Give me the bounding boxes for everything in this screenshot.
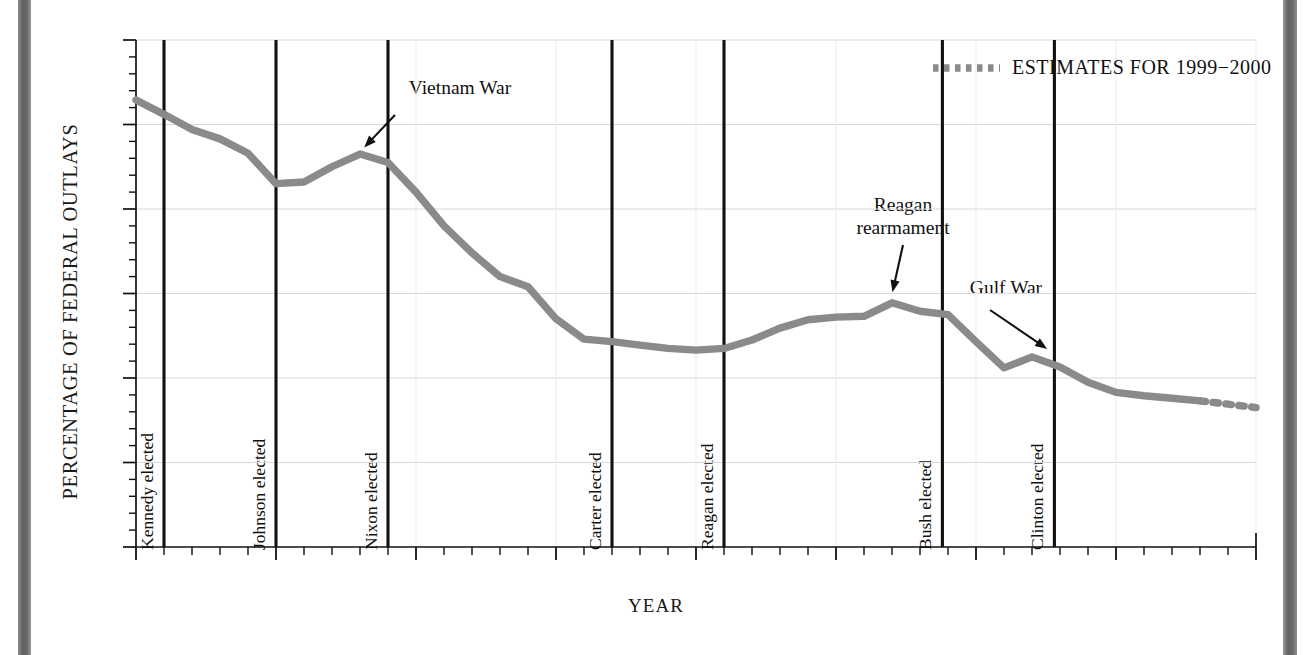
y-axis-ticks (123, 40, 136, 547)
annotation-arrow-head (1035, 338, 1048, 349)
annotation-arrow-head (891, 280, 900, 293)
legend-label: ESTIMATES FOR 1999−2000 (1012, 56, 1271, 79)
x-axis-ticks (136, 547, 1256, 560)
line-chart (0, 0, 1312, 655)
annotation-arrow-line (894, 245, 903, 285)
annotation-arrow-line (369, 115, 395, 142)
page-canvas: PERCENTAGE OF FEDERAL OUTLAYS YEAR Kenne… (0, 0, 1312, 655)
series-line-estimates (1200, 401, 1256, 408)
series-line-actual (136, 100, 1200, 401)
gridlines (136, 40, 1256, 547)
annotation-arrow-line (990, 310, 1041, 345)
